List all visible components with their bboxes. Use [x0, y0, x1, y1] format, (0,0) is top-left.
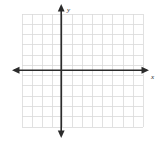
- graph-canvas: y x: [0, 0, 160, 143]
- coordinate-grid-figure: y x: [0, 0, 160, 143]
- figure-background: [0, 0, 160, 143]
